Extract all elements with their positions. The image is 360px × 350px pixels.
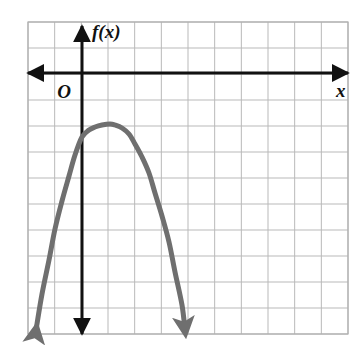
- origin-label: O: [57, 81, 71, 102]
- y-axis-label: f(x): [92, 21, 120, 43]
- graph-figure: f(x) x O: [0, 0, 360, 350]
- x-axis-label: x: [335, 80, 346, 101]
- coordinate-graph: f(x) x O: [0, 0, 360, 350]
